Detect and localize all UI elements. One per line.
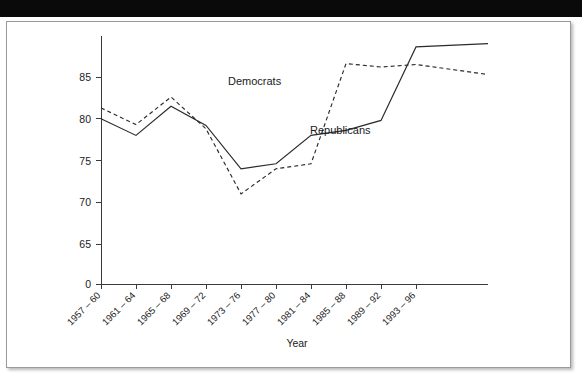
top-black-banner [0,0,582,17]
y-tick-label: 85 [79,71,91,83]
y-tick-label: 65 [79,238,91,250]
screenshot-root: 065707580851957 – 601961 – 641965 – 6819… [0,0,582,380]
series-line-democrats [101,64,488,194]
x-tick-label: 1965 – 68 [135,290,173,328]
line-chart: 065707580851957 – 601961 – 641965 – 6819… [7,22,570,367]
x-tick-label: 1985 – 88 [310,290,348,328]
x-tick-label: 1981 – 84 [275,290,313,328]
x-axis-title: Year [286,337,308,349]
x-tick-label: 1969 – 72 [170,290,208,328]
y-tick-label: 70 [79,196,91,208]
x-tick-label: 1993 – 96 [380,290,418,328]
x-tick-label: 1977 – 80 [240,290,278,328]
x-tick-label: 1957 – 60 [65,290,103,328]
y-tick-label: 75 [79,155,91,167]
y-tick-label: 0 [85,278,91,290]
x-tick-label: 1973 – 76 [205,290,243,328]
series-label-democrats: Democrats [228,75,282,87]
x-tick-label: 1989 – 92 [345,290,383,328]
series-line-republicans [101,44,488,169]
series-label-republicans: Republicans [310,124,371,136]
figure-frame: 065707580851957 – 601961 – 641965 – 6819… [6,21,571,368]
y-tick-label: 80 [79,113,91,125]
x-tick-label: 1961 – 64 [100,290,138,328]
